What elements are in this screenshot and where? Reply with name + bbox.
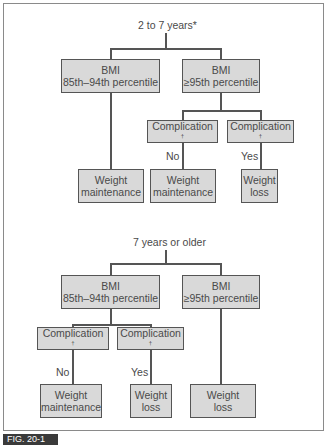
connector xyxy=(260,143,262,170)
figure-label: FIG. 20-1 xyxy=(3,434,58,445)
connector xyxy=(110,48,221,50)
connector xyxy=(150,350,152,385)
bmi-85-94-box: BMI 85th–94th percentile xyxy=(61,59,160,93)
bmi-85-94-box: BMI 85th–94th percentile xyxy=(61,275,160,309)
root-label-2-to-7: 2 to 7 years* xyxy=(138,19,197,31)
connector xyxy=(110,309,112,325)
connector xyxy=(165,250,167,264)
weight-loss-box: Weight loss xyxy=(130,384,172,418)
complication-box: Complication† xyxy=(227,120,294,143)
connector xyxy=(110,93,112,170)
weight-maintenance-box: Weight maintenance xyxy=(40,384,102,418)
connector xyxy=(165,33,167,49)
connector xyxy=(72,350,74,385)
complication-box: Complication† xyxy=(37,327,109,350)
complication-box: Complication† xyxy=(147,120,218,143)
complication-box: Complication† xyxy=(117,327,184,350)
connector xyxy=(220,309,222,385)
connector xyxy=(182,143,184,170)
edge-label-no: No xyxy=(56,366,69,378)
figure-frame xyxy=(3,3,324,431)
root-label-7-or-older: 7 years or older xyxy=(133,236,206,248)
weight-loss-box: Weight loss xyxy=(241,169,278,203)
connector xyxy=(182,110,261,112)
connector xyxy=(110,263,221,265)
weight-maintenance-box: Weight maintenance xyxy=(150,169,216,203)
edge-label-no: No xyxy=(166,150,179,162)
weight-loss-box: Weight loss xyxy=(190,384,256,418)
bmi-95-box: BMI ≥95th percentile xyxy=(182,59,260,93)
edge-label-yes: Yes xyxy=(241,150,258,162)
connector xyxy=(220,93,222,111)
bmi-95-box: BMI ≥95th percentile xyxy=(182,275,260,309)
edge-label-yes: Yes xyxy=(131,366,148,378)
connector xyxy=(72,324,151,326)
weight-maintenance-box: Weight maintenance xyxy=(78,169,144,203)
